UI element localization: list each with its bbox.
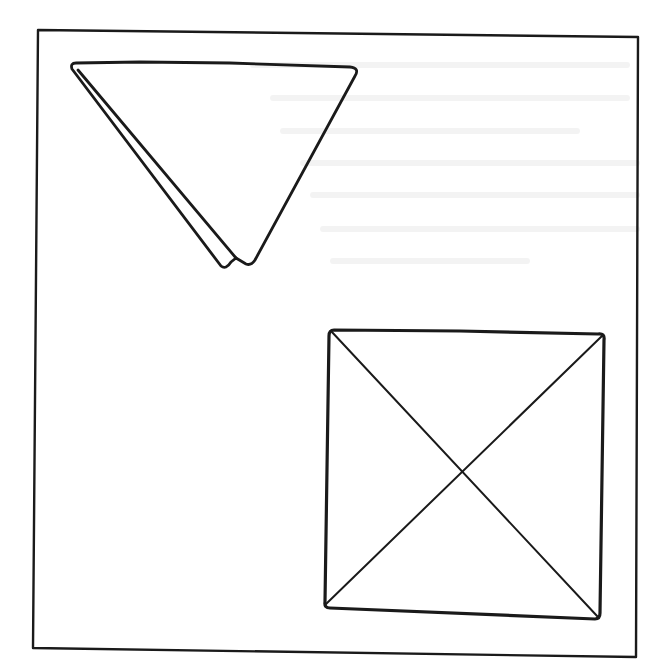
square-diagonal-1 (331, 331, 598, 617)
triangle-fold-line (78, 70, 236, 258)
square-with-diagonals (325, 330, 604, 619)
square-diagonal-2 (325, 335, 603, 605)
folded-triangle (72, 62, 357, 267)
line-drawing (0, 0, 661, 671)
triangle-outline (72, 62, 357, 267)
